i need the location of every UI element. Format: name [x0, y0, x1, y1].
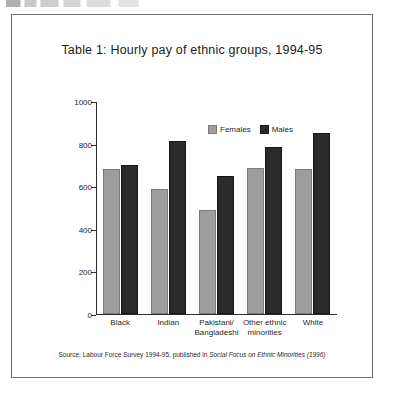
bar-males-2 — [217, 176, 234, 314]
bar-females-2 — [199, 210, 216, 314]
y-tick-label: 800 — [79, 140, 92, 149]
scan-artifact-top — [6, 0, 156, 7]
y-tick-label: 200 — [79, 268, 92, 277]
bar-females-4 — [295, 169, 312, 314]
y-tick-label: 1000 — [74, 98, 92, 107]
chart-title: Table 1: Hourly pay of ethnic groups, 19… — [12, 43, 372, 57]
source-prefix: Source: Labour Force Survey 1994-95, pub… — [58, 351, 209, 358]
bar-females-3 — [247, 168, 264, 314]
source-year: (1996) — [305, 351, 326, 358]
y-axis-line — [96, 102, 97, 315]
figure-frame: Table 1: Hourly pay of ethnic groups, 19… — [11, 14, 373, 378]
bar-males-3 — [265, 147, 282, 314]
source-note: Source: Labour Force Survey 1994-95, pub… — [12, 351, 372, 358]
plot-area: 02004006008001000 BlackIndianPakistani/B… — [96, 102, 337, 315]
bar-males-0 — [121, 165, 138, 314]
y-tick-label: 400 — [79, 225, 92, 234]
bar-females-0 — [103, 169, 120, 314]
x-axis-line — [96, 314, 337, 315]
bar-males-1 — [169, 141, 186, 314]
bar-females-1 — [151, 189, 168, 314]
bar-males-4 — [313, 133, 330, 314]
y-tick-label: 600 — [79, 183, 92, 192]
source-publication-title: Social Focus on Ethnic Minorities — [209, 351, 305, 358]
x-axis-label-4: White — [283, 318, 343, 328]
